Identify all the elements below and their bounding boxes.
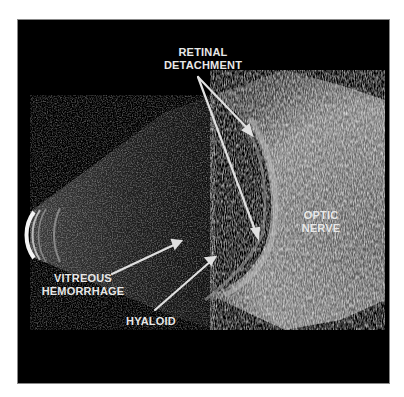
orbital-tissue [205, 70, 385, 330]
label-retinal-detachment: RETINAL DETACHMENT [148, 46, 258, 72]
label-hyaloid: HYALOID [116, 315, 186, 328]
label-optic-nerve: OPTIC NERVE [292, 209, 350, 235]
label-vitreous-hemorrhage: VITREOUS HEMORRHAGE [38, 272, 128, 298]
